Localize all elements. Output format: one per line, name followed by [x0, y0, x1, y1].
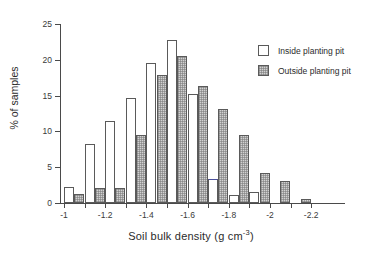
x-tick-label--1.8: -1.8 [214, 210, 244, 220]
x-tick-label--2.2: -2.2 [296, 210, 326, 220]
bar-outside--1.2[interactable] [115, 188, 125, 203]
bar-inside--1.3[interactable] [126, 98, 136, 203]
bar-inside--1.8[interactable] [229, 195, 239, 203]
x-tick-label--1: -1 [49, 210, 79, 220]
legend-label-inside: Inside planting pit [278, 46, 344, 56]
bar-outside--1.0[interactable] [74, 194, 84, 203]
bar-outside--1.8[interactable] [239, 135, 249, 203]
x-tick--1.8 [229, 203, 230, 208]
bar-outside--1.9[interactable] [260, 173, 270, 203]
y-tick-0 [55, 203, 60, 204]
x-tick--1.2 [105, 203, 106, 208]
legend-item-inside[interactable]: Inside planting pit [258, 45, 351, 56]
x-axis-title-tail: ) [250, 230, 254, 242]
bar-inside--1.6[interactable] [188, 94, 198, 203]
y-axis-title: % of samples [8, 38, 20, 158]
x-tick--1 [64, 203, 65, 208]
x-axis-title-exponent: -3 [243, 228, 250, 237]
bar-inside--1.4[interactable] [146, 63, 156, 203]
bar-inside--1.0[interactable] [64, 187, 74, 203]
x-axis-line [60, 203, 345, 204]
bar-inside--1.7[interactable] [208, 179, 218, 203]
x-tick--1.3 [126, 203, 127, 208]
bar-outside--1.7[interactable] [218, 109, 228, 204]
legend-item-outside[interactable]: Outside planting pit [258, 65, 351, 76]
x-axis-title-base: Soil bulk density (g cm [128, 230, 243, 242]
x-tick--2 [270, 203, 271, 208]
y-tick-label-20: 20 [22, 55, 52, 65]
y-tick-label-5: 5 [22, 162, 52, 172]
bar-outside--2.0[interactable] [280, 181, 290, 203]
x-tick--2.1 [291, 203, 292, 208]
bar-inside--1.2[interactable] [105, 121, 115, 203]
bar-outside--1.6[interactable] [198, 86, 208, 203]
bar-inside--1.5[interactable] [167, 40, 177, 203]
bar-inside--1.1[interactable] [85, 144, 95, 203]
x-tick--2.2 [311, 203, 312, 208]
x-axis-title: Soil bulk density (g cm-3) [0, 228, 382, 242]
x-tick-label--2: -2 [255, 210, 285, 220]
white-square-icon [258, 45, 269, 56]
y-tick-label-0: 0 [22, 198, 52, 208]
bar-outside--1.1[interactable] [95, 188, 105, 203]
bar-outside--1.5[interactable] [177, 56, 187, 203]
legend-label-outside: Outside planting pit [278, 66, 351, 76]
y-tick-label-25: 25 [22, 19, 52, 29]
y-tick-label-10: 10 [22, 126, 52, 136]
x-tick--1.6 [188, 203, 189, 208]
x-tick-label--1.6: -1.6 [173, 210, 203, 220]
x-tick-label--1.4: -1.4 [131, 210, 161, 220]
x-tick--1.7 [208, 203, 209, 208]
bar-outside--1.4[interactable] [157, 75, 167, 203]
x-tick-label--1.2: -1.2 [90, 210, 120, 220]
x-tick--1.4 [146, 203, 147, 208]
bar-inside--1.9[interactable] [249, 192, 259, 203]
hatched-square-icon [258, 65, 269, 76]
histogram-figure: % of samples 0510152025 -1-1.2-1.4-1.6-1… [0, 0, 382, 253]
x-tick--1.1 [85, 203, 86, 208]
chart-legend: Inside planting pit Outside planting pit [258, 45, 351, 85]
bar-outside--2.1[interactable] [301, 199, 311, 203]
x-tick--1.5 [167, 203, 168, 208]
y-tick-label-15: 15 [22, 91, 52, 101]
bar-outside--1.3[interactable] [136, 135, 146, 203]
x-tick--1.9 [249, 203, 250, 208]
